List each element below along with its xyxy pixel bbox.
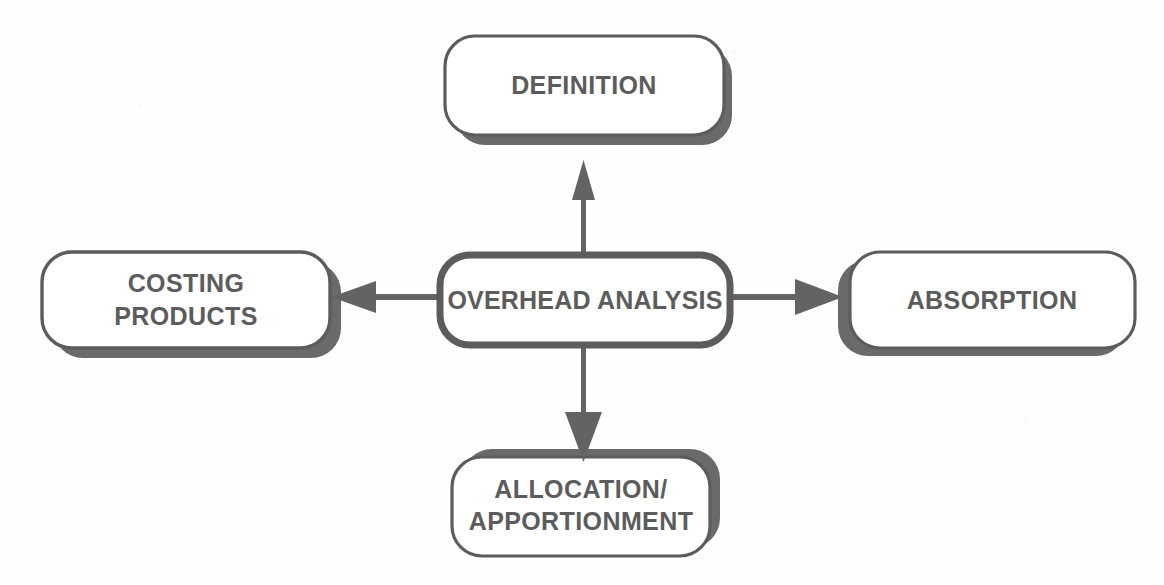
node-costing-products-body bbox=[42, 252, 330, 348]
node-costing-products-label-line1: COSTING bbox=[128, 269, 245, 297]
node-definition-label: DEFINITION bbox=[511, 71, 657, 99]
node-costing-products-label-line2: PRODUCTS bbox=[114, 302, 257, 330]
arrow-up-to-definition bbox=[572, 160, 595, 256]
diagram-canvas: DEFINITION COSTING PRODUCTS ABSORPTION A… bbox=[0, 0, 1164, 585]
arrow-left-to-costing-products bbox=[331, 281, 440, 313]
node-allocation-apportionment-label-line1: ALLOCATION/ bbox=[494, 475, 667, 503]
node-allocation-apportionment-label-line2: APPORTIONMENT bbox=[469, 507, 694, 535]
arrow-right-to-absorption bbox=[728, 279, 843, 315]
node-allocation-apportionment[interactable]: ALLOCATION/ APPORTIONMENT bbox=[452, 449, 720, 556]
overhead-analysis-diagram: DEFINITION COSTING PRODUCTS ABSORPTION A… bbox=[0, 0, 1164, 585]
node-overhead-analysis-label: OVERHEAD ANALYSIS bbox=[447, 286, 722, 314]
arrow-down-to-allocation bbox=[565, 344, 602, 462]
node-absorption[interactable]: ABSORPTION bbox=[838, 252, 1135, 356]
node-overhead-analysis[interactable]: OVERHEAD ANALYSIS bbox=[440, 255, 730, 345]
node-costing-products[interactable]: COSTING PRODUCTS bbox=[42, 252, 341, 358]
node-definition[interactable]: DEFINITION bbox=[445, 36, 732, 145]
node-absorption-label: ABSORPTION bbox=[907, 286, 1078, 314]
